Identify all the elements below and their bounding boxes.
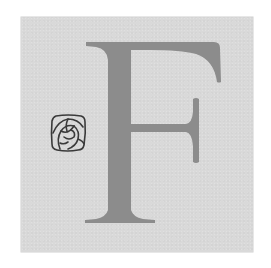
drop-cap-letter — [0, 0, 271, 268]
rose-icon — [50, 113, 87, 153]
